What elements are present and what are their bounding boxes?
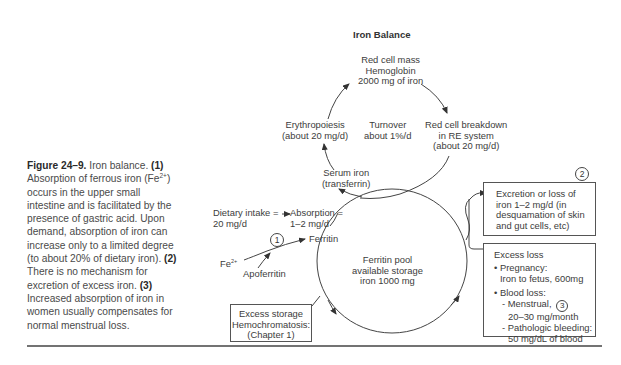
excess-loss-title: Excess loss bbox=[494, 249, 595, 260]
line-breakdown-to-pool bbox=[360, 156, 449, 199]
excretion-box: Excretion or loss of iron 1–2 mg/d (in d… bbox=[483, 182, 596, 236]
menstrual-detail: 20–30 mg/month bbox=[494, 311, 595, 322]
ferritin-pool-label: Ferritin pool bbox=[352, 255, 423, 266]
absorption-label: Absorption = bbox=[290, 208, 343, 219]
pregnancy-item: • Pregnancy: bbox=[494, 262, 595, 273]
arrow-apoferritin-to-fe bbox=[258, 253, 270, 268]
turnover-label: Turnover bbox=[364, 120, 411, 131]
ferritin-label: Ferritin bbox=[309, 234, 338, 245]
dietary-intake-label: Dietary intake = bbox=[213, 208, 278, 219]
red-cell-mass-label: Red cell mass bbox=[358, 55, 423, 66]
serum-iron-label: Serum iron bbox=[322, 168, 370, 179]
excess-storage-label: Excess storage bbox=[231, 309, 311, 320]
marker-2: 2 bbox=[575, 167, 589, 181]
diagram-title: Iron Balance bbox=[353, 30, 411, 41]
excess-storage-box: Excess storage Hemochromatosis: (Chapter… bbox=[230, 304, 312, 342]
node-absorption: Absorption = 1–2 mg/d bbox=[290, 208, 343, 229]
excretion-line-1: Excretion or loss of bbox=[496, 189, 595, 200]
pathologic-label: - Pathologic bleeding: bbox=[494, 322, 595, 333]
line-pool-to-excess-storage bbox=[312, 296, 320, 306]
chapter-reference: (Chapter 1) bbox=[231, 330, 311, 341]
fe-charge: 2+ bbox=[231, 258, 237, 264]
arrow-erythro-to-redcell bbox=[328, 84, 349, 119]
node-turnover: Turnover about 1%/d bbox=[364, 120, 411, 141]
red-cell-iron-amount: 2000 mg of iron bbox=[358, 76, 423, 87]
node-red-cell-mass: Red cell mass Hemoglobin 2000 mg of iron bbox=[358, 55, 423, 87]
node-serum-iron: Serum iron (transferrin) bbox=[322, 168, 370, 189]
node-erythropoiesis: Erythropoiesis (about 20 mg/d) bbox=[282, 120, 348, 141]
fe-label: Fe2+ bbox=[220, 256, 237, 270]
excretion-line-4: and gut cells, etc) bbox=[496, 221, 595, 232]
excess-loss-text: Excess loss • Pregnancy: Iron to fetus, … bbox=[494, 249, 595, 344]
absorption-amount: 1–2 mg/d bbox=[290, 219, 343, 230]
apoferritin-label: Apoferritin bbox=[243, 269, 286, 280]
marker-3: 3 bbox=[556, 300, 568, 312]
arrow-redcell-to-breakdown bbox=[421, 84, 447, 113]
node-red-cell-breakdown: Red cell breakdown in RE system (about 2… bbox=[425, 120, 507, 152]
storage-iron-amount: iron 1000 mg bbox=[352, 276, 423, 287]
turnover-rate: about 1%/d bbox=[364, 131, 411, 142]
erythropoiesis-rate: (about 20 mg/d) bbox=[282, 131, 348, 142]
pregnancy-detail: Iron to fetus, 600mg bbox=[494, 273, 595, 284]
node-dietary-intake: Dietary intake = 20 mg/d bbox=[213, 208, 278, 229]
menstrual-label: - Menstrual, bbox=[502, 298, 552, 309]
blood-loss-item: • Blood loss: bbox=[494, 287, 595, 298]
pathologic-detail: 50 mg/dL of blood bbox=[494, 333, 595, 344]
pool-arrow-lower-right bbox=[451, 296, 459, 305]
excretion-text: Excretion or loss of iron 1–2 mg/d (in d… bbox=[496, 189, 595, 231]
erythropoiesis-label: Erythropoiesis bbox=[282, 120, 348, 131]
dietary-intake-amount: 20 mg/d bbox=[213, 219, 278, 230]
menstrual-row: - Menstrual, 3 bbox=[494, 298, 595, 311]
breakdown-rate: (about 20 mg/d) bbox=[425, 141, 507, 152]
breakdown-label: Red cell breakdown bbox=[425, 120, 507, 131]
excess-loss-box: Excess loss • Pregnancy: Iron to fetus, … bbox=[483, 243, 596, 337]
marker-1: 1 bbox=[270, 233, 284, 247]
transferrin-label: (transferrin) bbox=[322, 179, 370, 190]
fe-symbol: Fe bbox=[220, 258, 231, 269]
excess-storage-text: Excess storage Hemochromatosis: (Chapter… bbox=[231, 305, 311, 341]
node-ferritin-pool: Ferritin pool available storage iron 100… bbox=[352, 255, 423, 287]
